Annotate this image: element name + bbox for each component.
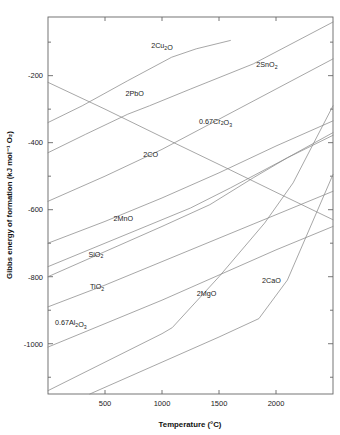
series-label-2sno2: 2SnO2	[256, 60, 277, 70]
series-label-2cu2o: 2Cu2O	[151, 41, 173, 52]
x-tick-label: 1500	[211, 399, 228, 408]
x-axis-title: Temperature (°C)	[159, 420, 222, 429]
series-label-2co: 2CO	[143, 150, 158, 159]
series-line-2cao	[90, 175, 333, 395]
series-line-2cu2o	[48, 40, 230, 122]
x-tick-label: 2000	[268, 399, 285, 408]
series-label-2pbo: 2PbO	[125, 89, 144, 98]
y-tick-label: -400	[28, 138, 43, 147]
series-label-0-67cr2o3: 0.67Cr2O3	[199, 117, 232, 128]
plot-frame	[48, 17, 333, 394]
series-line-2mno	[48, 135, 333, 266]
y-tick-label: -800	[28, 273, 43, 282]
series-line-2pbo	[48, 22, 333, 153]
series-label-2mgo: 2MgO	[197, 289, 217, 298]
series-labels: 2Cu2O2SnO22PbO0.67Cr2O32CO2MnOSiO2TiO20.…	[55, 41, 281, 329]
ellingham-diagram: 500100015002000 -200-400-600-800-1000 2C…	[0, 0, 340, 435]
series-line-2co	[48, 82, 333, 219]
series-label-0-67al2o3: 0.67Al2O3	[55, 318, 87, 329]
series-label-2cao: 2CaO	[262, 276, 281, 285]
series-label-tio2: TiO2	[90, 282, 104, 292]
plot-border	[48, 17, 333, 394]
x-tick-label: 500	[99, 399, 112, 408]
series-label-2mno: 2MnO	[113, 214, 133, 223]
x-tick-label: 1000	[154, 399, 171, 408]
y-tick-label: -1000	[24, 340, 43, 349]
y-tick-label: -200	[28, 71, 43, 80]
y-axis-title: Gibbs energy of formation (kJ mol⁻¹ O₂)	[5, 131, 14, 279]
chart-svg: 500100015002000 -200-400-600-800-1000 2C…	[0, 0, 340, 435]
series-line-2sno2	[48, 59, 333, 201]
series-line-0-67cr2o3	[48, 121, 333, 243]
y-tick-label: -600	[28, 205, 43, 214]
series-lines	[48, 22, 333, 394]
series-line-2mgo	[48, 106, 333, 391]
series-label-sio2: SiO2	[88, 250, 103, 260]
